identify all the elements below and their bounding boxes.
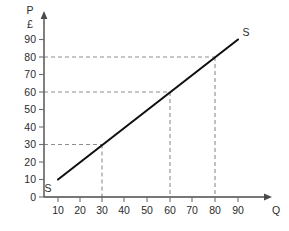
y-tick-label-10: 10 xyxy=(24,173,36,185)
x-tick-label-10: 10 xyxy=(52,204,64,216)
x-tick-label-90: 90 xyxy=(232,204,244,216)
x-tick-label-30: 30 xyxy=(96,204,108,216)
x-axis-title: Q xyxy=(272,204,280,216)
supply-curve-chart: 0 10 20 30 40 50 60 70 80 90 P £ xyxy=(0,0,289,231)
x-tick-label-50: 50 xyxy=(141,204,153,216)
x-tick-label-80: 80 xyxy=(209,204,221,216)
x-tick-label-60: 60 xyxy=(164,204,176,216)
y-tick-label-60: 60 xyxy=(24,86,36,98)
y-tick-label-50: 50 xyxy=(24,103,36,115)
y-tick-label-0: 0 xyxy=(30,191,36,203)
y-axis-arrow xyxy=(41,11,48,19)
y-axis xyxy=(39,11,47,197)
x-axis xyxy=(44,194,272,202)
y-axis-unit-label: £ xyxy=(27,18,33,30)
y-tick-labels: 0 10 20 30 40 50 60 70 80 90 xyxy=(24,33,36,203)
x-tick-labels: 10 20 30 40 50 60 70 80 90 xyxy=(52,204,244,216)
y-tick-label-20: 20 xyxy=(24,156,36,168)
y-axis-title: P xyxy=(26,4,33,16)
y-tick-label-90: 90 xyxy=(24,33,36,45)
x-tick-label-70: 70 xyxy=(186,204,198,216)
x-tick-label-40: 40 xyxy=(118,204,130,216)
supply-curve-label-top: S xyxy=(242,26,249,38)
y-tick-label-70: 70 xyxy=(24,68,36,80)
supply-curve-label-bottom: S xyxy=(44,182,51,194)
y-tick-label-80: 80 xyxy=(24,51,36,63)
y-tick-label-30: 30 xyxy=(24,138,36,150)
x-tick-label-20: 20 xyxy=(74,204,86,216)
x-axis-arrow xyxy=(264,194,272,201)
y-tick-label-40: 40 xyxy=(24,121,36,133)
supply-curve-line xyxy=(58,40,238,180)
chart-canvas: 0 10 20 30 40 50 60 70 80 90 P £ xyxy=(0,0,289,231)
